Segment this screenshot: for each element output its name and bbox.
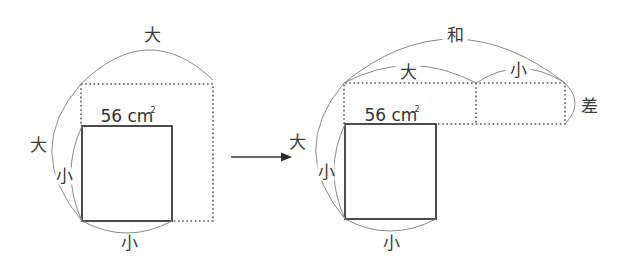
right-area-label: 56 cm2 <box>364 106 419 124</box>
right-top-small-arc-label: 小 <box>506 62 531 79</box>
left-dotted-large-square <box>81 84 213 221</box>
right-difference-arc-label: 差 <box>581 98 598 115</box>
transform-arrow <box>231 153 292 162</box>
right-outer-arc <box>316 83 345 219</box>
right-inner-arc-label: 小 <box>318 164 335 181</box>
diagram-canvas <box>0 0 620 265</box>
right-bottom-arc-label: 小 <box>383 235 400 252</box>
left-inner-arc-label: 小 <box>56 168 73 185</box>
right-area-unit-exponent: 2 <box>414 105 419 114</box>
left-inner-arc <box>71 126 82 221</box>
left-outer-arc-label: 大 <box>30 137 47 154</box>
left-area-label: 56 cm2 <box>100 107 155 125</box>
left-panel <box>52 50 213 233</box>
right-sum-arc-label: 和 <box>443 27 468 44</box>
left-area-value: 56 cm <box>100 106 153 126</box>
left-top-arc-label: 大 <box>140 27 165 44</box>
left-top-arc <box>81 50 213 84</box>
right-inner-arc <box>334 124 345 219</box>
right-sum-arc <box>344 39 565 83</box>
right-bottom-arc <box>345 219 436 231</box>
left-bottom-arc <box>82 221 172 233</box>
right-outer-arc-label: 大 <box>289 134 306 151</box>
left-bottom-arc-label: 小 <box>121 235 138 252</box>
left-solid-square <box>82 126 172 221</box>
right-solid-square <box>345 124 436 219</box>
right-top-large-arc-label: 大 <box>396 64 421 81</box>
left-outer-arc <box>52 84 82 221</box>
right-area-value: 56 cm <box>364 105 417 125</box>
right-difference-arc <box>565 83 575 124</box>
left-area-unit-exponent: 2 <box>150 106 155 115</box>
right-panel <box>316 39 575 231</box>
arrow-head-icon <box>281 153 292 162</box>
